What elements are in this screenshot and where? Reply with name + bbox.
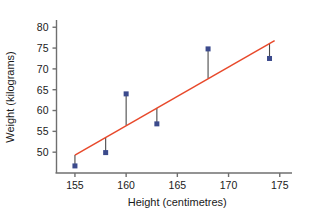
y-axis-tick-label: 65 (37, 84, 49, 96)
data-point-marker (206, 46, 211, 51)
x-axis-title: Height (centimetres) (128, 196, 227, 208)
x-axis-tick-label: 160 (117, 179, 135, 191)
y-axis-tick-label: 50 (37, 146, 49, 158)
chart-canvas: 50556065707580155160165170175Height (cen… (0, 0, 310, 216)
x-axis-tick-label: 155 (66, 179, 84, 191)
data-points-group (72, 46, 272, 168)
y-axis-tick-label: 70 (37, 63, 49, 75)
regression-line-path (75, 41, 275, 156)
data-point-marker (103, 150, 108, 155)
y-axis-tick-label: 80 (37, 21, 49, 33)
data-point-marker (267, 56, 272, 61)
y-axis-title: Weight (kilograms) (4, 51, 16, 143)
y-axis-tick-label: 55 (37, 125, 49, 137)
data-point-marker (124, 91, 129, 96)
x-axis-tick-label: 170 (220, 179, 238, 191)
data-point-marker (154, 121, 159, 126)
data-point-marker (72, 163, 77, 168)
y-axis-tick-label: 75 (37, 42, 49, 54)
residual-lines-group (75, 43, 270, 166)
x-axis-tick-label: 175 (271, 179, 289, 191)
scatter-plot-figure: 50556065707580155160165170175Height (cen… (0, 0, 310, 216)
y-axis-tick-label: 60 (37, 104, 49, 116)
regression-line (75, 41, 275, 156)
x-axis-tick-label: 165 (169, 179, 187, 191)
